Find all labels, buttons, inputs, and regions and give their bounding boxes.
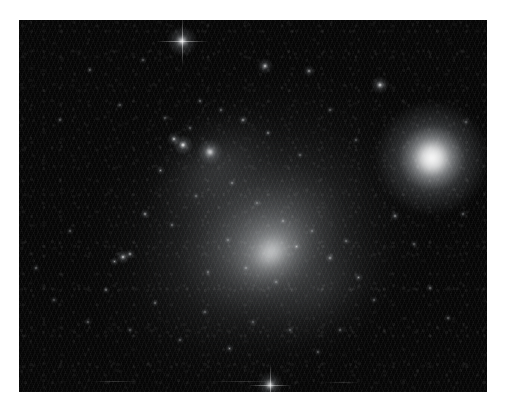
screenshot-root: Irregular dwarf galaxy field [0,0,505,417]
astronomical-image-plate [19,20,487,392]
film-grain-layer [19,20,487,392]
